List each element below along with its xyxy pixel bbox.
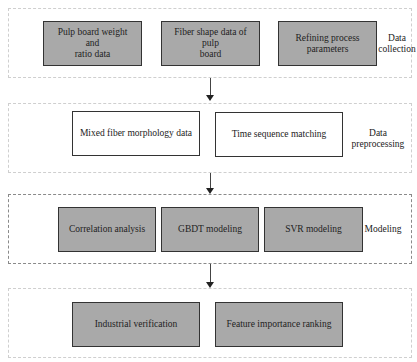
box-text-line: Time sequence matching [232,129,327,140]
box-text-line: board [200,49,222,59]
box-text-line: GBDT modeling [178,224,242,235]
box-feature-importance-ranking: Feature importance ranking [215,302,343,347]
box-text-line: Refining process [295,33,359,43]
box-pulp-board-weight-ratio: Pulp board weight andratio data [43,21,142,66]
box-text-line: Pulp board weight and [58,27,128,48]
stage-label-data-preprocessing: Datapreprocessing [348,128,408,150]
box-text-line: parameters [307,44,349,54]
box-text-line: ratio data [75,49,111,59]
stage-label-modeling: Modeling [363,224,403,235]
stage-label-data-collection: Datacollection [377,33,417,55]
box-industrial-verification: Industrial verification [72,302,200,347]
box-svr-modeling: SVR modeling [264,207,363,252]
box-time-sequence-matching: Time sequence matching [215,112,343,157]
box-text-line: Fiber shape data of pulp [174,27,247,48]
box-text-line: Feature importance ranking [227,319,332,330]
box-text-line: Mixed fiber morphology data [80,128,192,139]
box-mixed-fiber-morphology: Mixed fiber morphology data [72,111,200,156]
box-refining-process-parameters: Refining processparameters [278,21,377,66]
box-fiber-shape-data: Fiber shape data of pulpboard [161,21,260,66]
box-text-line: Industrial verification [95,319,178,330]
stage-verification [8,288,412,358]
box-text-line: SVR modeling [285,224,342,235]
box-text-line: Correlation analysis [69,224,145,235]
box-gbdt-modeling: GBDT modeling [161,207,259,252]
box-correlation-analysis: Correlation analysis [58,207,156,252]
